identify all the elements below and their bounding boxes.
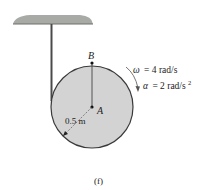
rotation-arrowhead-icon	[136, 86, 141, 92]
label-point-a: A	[96, 105, 104, 116]
label-radius: 0.5 m	[65, 116, 86, 126]
disk-figure: B A 0.5 m ω = 4 rad/s α = 2 rad/s 2 (f)	[0, 0, 209, 190]
point-b-dot	[90, 61, 93, 64]
label-alpha: α = 2 rad/s 2	[143, 79, 191, 91]
figure-caption: (f)	[94, 176, 103, 186]
label-point-b: B	[88, 50, 94, 61]
label-omega: ω = 4 rad/s	[133, 65, 178, 75]
ceiling-support	[13, 15, 93, 24]
